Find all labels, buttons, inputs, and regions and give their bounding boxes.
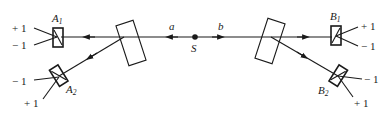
a2-minus-label: − 1 xyxy=(12,75,26,87)
b1-minus-label: − 1 xyxy=(361,40,375,52)
a2-label: A2 xyxy=(65,83,77,97)
diagram-canvas: S a b A1 + 1 − 1 A2 − 1 + 1 B1 + 1 − 1 B… xyxy=(0,0,391,113)
beam-splitter-left xyxy=(116,20,146,66)
source-dot-icon xyxy=(192,34,198,40)
b1-plus-label: + 1 xyxy=(361,20,375,32)
b2-plus-label: + 1 xyxy=(354,97,368,109)
b2-label: B2 xyxy=(318,84,329,98)
a2-plus-output xyxy=(43,77,59,99)
arrow-left-to-a2-icon xyxy=(89,53,97,58)
beam-b-label: b xyxy=(218,20,224,32)
source-label: S xyxy=(191,42,197,54)
b2-minus-label: − 1 xyxy=(364,73,378,85)
photon-pair-analyzer-diagram: S a b A1 + 1 − 1 A2 − 1 + 1 B1 + 1 − 1 B… xyxy=(0,0,391,113)
arrow-right-to-b2-icon xyxy=(297,52,305,57)
b2-plus-output xyxy=(338,76,353,97)
beam-splitter-right xyxy=(255,18,285,64)
a1-plus-label: + 1 xyxy=(12,22,26,34)
a1-minus-label: − 1 xyxy=(12,39,26,51)
a1-label: A1 xyxy=(51,12,62,26)
beam-a-label: a xyxy=(169,20,175,32)
b1-label: B1 xyxy=(330,10,340,24)
a2-plus-label: + 1 xyxy=(24,97,38,109)
